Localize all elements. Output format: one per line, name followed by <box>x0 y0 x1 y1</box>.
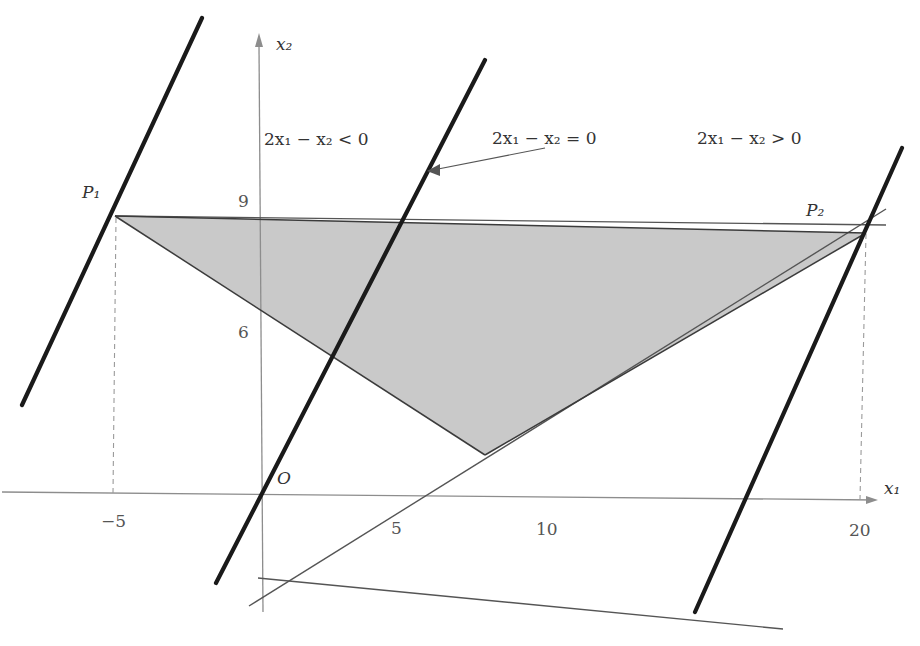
region-label-positive: 2x₁ − x₂ > 0 <box>697 128 802 148</box>
tick-label-y-6: 6 <box>238 322 249 342</box>
leader-arrow-shaft <box>433 148 545 170</box>
dashed-guide-p1 <box>113 218 116 494</box>
tick-label-x-minus5-text: −5 <box>101 511 126 531</box>
region-label-negative-text: 2x₁ − x₂ < 0 <box>264 129 369 149</box>
tick-label-x-10: 10 <box>536 519 558 539</box>
tick-label-x-minus5: −5 <box>101 511 126 531</box>
origin-label-text: O <box>277 468 291 488</box>
x-axis-arrowhead <box>866 496 878 504</box>
point-label-p2: P₂ <box>806 200 824 220</box>
point-label-p2-text: P₂ <box>806 200 824 220</box>
geometry-plot <box>0 0 920 646</box>
tick-label-x-5-text: 5 <box>391 518 402 538</box>
x-axis-label: x₁ <box>884 478 900 498</box>
leader-arrow-zero-line <box>427 148 545 176</box>
tick-label-x-5: 5 <box>391 518 402 538</box>
thin-line-lower-left-edge <box>258 578 783 629</box>
tick-label-y-6-text: 6 <box>238 322 249 342</box>
tick-label-x-20-text: 20 <box>849 520 871 540</box>
shaded-feasible-region <box>115 216 866 455</box>
figure-canvas: x₂ x₁ O P₁ P₂ −5 5 10 20 9 6 2x₁ − x₂ < … <box>0 0 920 646</box>
region-label-positive-text: 2x₁ − x₂ > 0 <box>697 128 802 148</box>
region-label-negative: 2x₁ − x₂ < 0 <box>264 129 369 149</box>
tick-label-x-20: 20 <box>849 520 871 540</box>
origin-label: O <box>277 468 291 488</box>
y-axis-label-text: x₂ <box>276 34 292 54</box>
y-axis-arrowhead <box>255 33 263 47</box>
tick-label-x-10-text: 10 <box>536 519 558 539</box>
region-label-zero-text: 2x₁ − x₂ = 0 <box>492 128 597 148</box>
point-label-p1: P₁ <box>82 182 100 202</box>
thick-line-left <box>22 18 202 405</box>
x-axis-label-text: x₁ <box>884 478 900 498</box>
tick-label-y-9-text: 9 <box>238 191 249 211</box>
point-label-p1-text: P₁ <box>82 182 100 202</box>
y-axis-line <box>259 46 263 612</box>
thick-line-right <box>695 148 902 612</box>
dashed-guide-p2 <box>860 234 866 499</box>
region-label-zero: 2x₁ − x₂ = 0 <box>492 128 597 148</box>
y-axis-label: x₂ <box>276 34 292 54</box>
tick-label-y-9: 9 <box>238 191 249 211</box>
